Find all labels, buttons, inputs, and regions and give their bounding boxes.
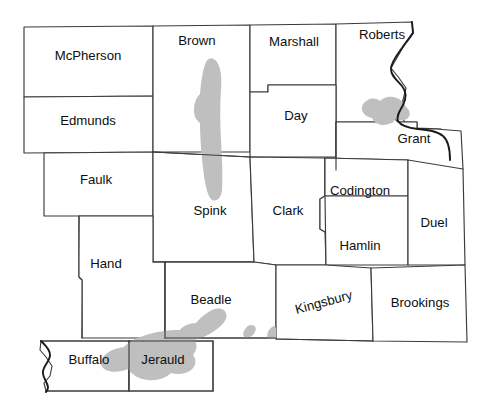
county-shape-hand[interactable]	[79, 216, 165, 338]
county-label-faulk: Faulk	[80, 172, 113, 187]
county-label-codington: Codington	[330, 183, 390, 198]
county-label-brookings: Brookings	[391, 295, 450, 310]
county-shape-duel[interactable]	[408, 160, 465, 265]
county-label-marshall: Marshall	[269, 34, 319, 49]
county-label-edmunds: Edmunds	[60, 113, 116, 128]
county-label-grant: Grant	[398, 131, 431, 146]
county-label-roberts: Roberts	[359, 27, 406, 42]
county-label-duel: Duel	[420, 215, 447, 230]
county-label-mcpherson: McPherson	[55, 48, 122, 63]
county-label-brown: Brown	[178, 33, 215, 48]
county-label-day: Day	[284, 108, 308, 123]
county-label-hamlin: Hamlin	[339, 238, 380, 253]
county-label-beadle: Beadle	[190, 292, 231, 307]
county-map-container: McPherson Brown Marshall Roberts Edmunds…	[0, 0, 485, 413]
county-shape-hamlin[interactable]	[325, 196, 408, 265]
county-label-buffalo: Buffalo	[69, 352, 110, 367]
county-map-svg[interactable]: McPherson Brown Marshall Roberts Edmunds…	[0, 0, 485, 413]
county-label-hand: Hand	[90, 256, 122, 271]
county-label-clark: Clark	[273, 203, 304, 218]
county-label-spink: Spink	[194, 203, 227, 218]
county-label-jerauld: Jerauld	[141, 352, 184, 367]
